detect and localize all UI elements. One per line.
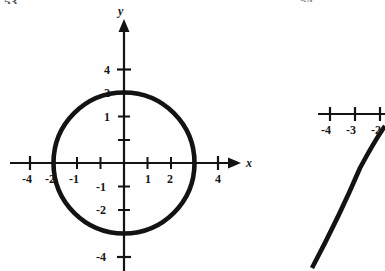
y-tick-label-neg2: -2 <box>96 204 106 216</box>
y-axis-arrowhead <box>119 19 130 32</box>
y-tick-label-1: 1 <box>104 111 110 123</box>
x-tick-label-neg4: -4 <box>22 173 32 185</box>
right-x-tick-label-neg3: -3 <box>346 124 356 136</box>
x-tick-label-1: 1 <box>145 173 151 185</box>
figure-container: 53. 54. <box>0 0 385 271</box>
right-x-tick-label-neg2: -2 <box>371 124 381 136</box>
y-tick-label-neg4: -4 <box>96 251 106 263</box>
right-x-tick-label-neg4: -4 <box>321 124 331 136</box>
x-tick-label-4: 4 <box>215 173 221 185</box>
right-curve <box>312 126 385 268</box>
y-tick-label-neg1: -1 <box>96 181 106 193</box>
x-axis-label: x <box>246 157 252 169</box>
y-tick-label-2: 2 <box>104 87 110 99</box>
y-axis-label: y <box>118 5 123 17</box>
x-tick-label-neg1: -1 <box>69 173 79 185</box>
x-tick-label-neg2: -2 <box>45 173 55 185</box>
y-tick-label-4: 4 <box>104 64 110 76</box>
x-tick-label-2: 2 <box>167 173 173 185</box>
x-axis-arrowhead <box>228 158 241 169</box>
